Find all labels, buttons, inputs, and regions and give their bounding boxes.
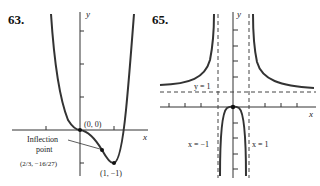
right-x-label: x (308, 109, 313, 119)
inflection-label-1: Inflection (27, 135, 58, 144)
v-asymptote-left-label: x = −1 (188, 140, 209, 149)
min-label: (1, −1) (100, 169, 122, 178)
inflection-label-2: point (36, 145, 53, 154)
origin-label: (0, 0) (84, 120, 102, 129)
left-x-label: x (142, 132, 147, 142)
inflection-coords: (2/3, −16/27) (20, 160, 58, 168)
labels: y x (0, 0) (1, −1) Inflection point (2/3… (0, 0, 320, 186)
right-y-label: y (236, 9, 241, 19)
left-y-label: y (85, 9, 90, 19)
h-asymptote-label: y = 1 (194, 82, 211, 91)
v-asymptote-right-label: x = 1 (252, 140, 269, 149)
